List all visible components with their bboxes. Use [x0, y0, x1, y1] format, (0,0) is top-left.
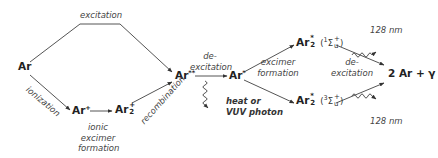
- label-emission-128nm-bottom: 128 nm: [370, 117, 403, 126]
- heat-vuv-wavy-arrow: [203, 81, 208, 108]
- species-ar: Ar: [18, 61, 31, 72]
- label-excitation: excitation: [80, 11, 122, 20]
- excitation-arrow: [30, 24, 172, 72]
- species-ar2-star-singlet: Ar*2(1Σ+u): [296, 36, 343, 51]
- label-emission-128nm-top: 128 nm: [370, 26, 403, 35]
- species-ar2-ion: Ar+2: [115, 103, 135, 117]
- products: 2 Ar + γ: [388, 68, 436, 79]
- term-symbol-singlet: (1Σ+u): [320, 38, 343, 48]
- emission-lower-wavy-arrow: [352, 94, 376, 99]
- term-symbol-triplet: (3Σ+u): [320, 96, 343, 106]
- label-de-excitation-1: de- excitation: [190, 51, 230, 72]
- species-ar-ion: Ar+: [72, 105, 91, 116]
- label-ionic-excimer-formation: ionic excimer formation: [78, 122, 118, 154]
- label-excimer-formation: excimer formation: [256, 57, 300, 78]
- diagram-arrows: [0, 0, 438, 158]
- species-ar2-star-triplet: Ar*2(3Σ+u): [296, 94, 343, 109]
- label-heat-or-vuv-photon: heat or VUV photon: [226, 96, 283, 118]
- label-de-excitation-2: de- excitation: [330, 57, 374, 78]
